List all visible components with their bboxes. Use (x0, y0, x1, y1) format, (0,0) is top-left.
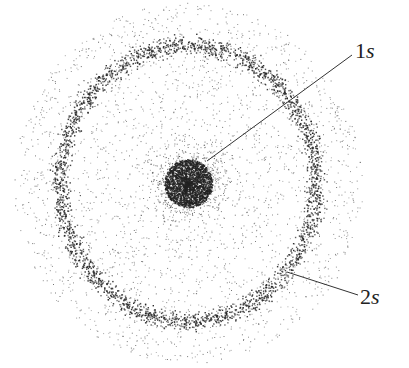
label-1s: 1s (355, 40, 375, 62)
electron-density-plot (0, 0, 409, 368)
label-2s: 2s (360, 286, 380, 308)
orbital-diagram: 1s 2s (0, 0, 409, 368)
leader-line-1s (207, 55, 352, 161)
leader-line-2s (287, 272, 358, 295)
